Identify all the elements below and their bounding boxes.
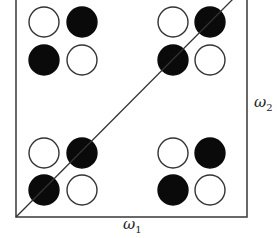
filled-circle — [29, 45, 59, 75]
y-axis-label: ω2 — [254, 93, 273, 113]
filled-circle — [195, 138, 225, 168]
filled-circle — [29, 175, 59, 205]
open-circle — [158, 7, 188, 37]
circle-group-top-left — [29, 7, 97, 75]
filled-circle — [158, 175, 188, 205]
diagram-canvas — [0, 0, 279, 238]
y-axis-subscript: 2 — [266, 102, 272, 113]
open-circle — [29, 7, 59, 37]
open-circle — [158, 138, 188, 168]
open-circle — [67, 175, 97, 205]
circle-group-bottom-right — [158, 138, 225, 205]
filled-circle — [67, 138, 97, 168]
open-circle — [29, 138, 59, 168]
x-axis-label: ω1 — [123, 215, 142, 235]
y-axis-symbol: ω — [254, 93, 266, 111]
x-axis-symbol: ω — [123, 215, 135, 233]
filled-circle — [67, 7, 97, 37]
open-circle — [67, 45, 97, 75]
open-circle — [195, 45, 225, 75]
circle-group-bottom-left — [29, 138, 97, 205]
open-circle — [195, 175, 225, 205]
x-axis-subscript: 1 — [135, 224, 141, 235]
